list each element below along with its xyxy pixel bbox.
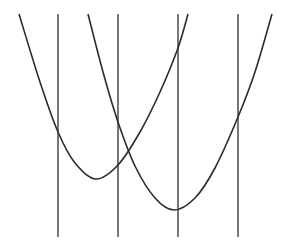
parabolas-diagram	[0, 0, 286, 251]
diagram-canvas	[0, 0, 286, 251]
parabola-left-curve	[19, 14, 188, 179]
curves-group	[19, 14, 272, 210]
vertical-lines-group	[58, 14, 238, 237]
